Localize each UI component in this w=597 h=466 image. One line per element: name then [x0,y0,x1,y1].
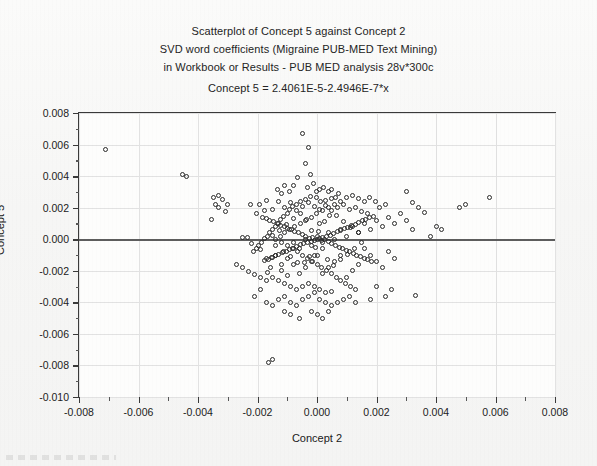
scatter-point [318,199,323,204]
scatter-point [320,246,325,251]
scatter-point [300,204,305,209]
scatter-point [234,262,239,267]
scatter-point [326,309,331,314]
scatter-point [306,145,311,150]
y-axis-tick-label: -0.004 [39,296,69,308]
scatter-point [294,287,299,292]
scatter-point [282,281,287,286]
scatter-point [270,207,275,212]
scatter-point [338,257,343,262]
scatter-point [294,303,299,308]
scatter-point [264,198,269,203]
scatter-point [216,205,221,210]
scatter-point [322,219,327,224]
x-axis-minor-tick [466,397,467,401]
scatter-point [377,205,382,210]
scatter-point [392,221,397,226]
scatter-point [344,234,349,239]
scatter-point [359,209,364,214]
y-axis-minor-tick [76,160,80,161]
x-axis-tick-label: -0.006 [124,406,154,418]
scatter-point [383,294,388,299]
scatter-point [303,265,308,270]
scatter-point [240,235,245,240]
y-axis-tick [73,208,79,209]
scatter-point [368,227,373,232]
x-axis-minor-tick [228,397,229,401]
scatter-point [249,241,254,246]
x-axis-title: Concept 2 [78,432,556,444]
scatter-point [457,205,462,210]
scatter-point [295,260,300,265]
scatter-point [380,224,385,229]
x-axis-minor-tick [406,397,407,401]
x-axis-tick [436,397,437,403]
scatter-point [350,268,355,273]
scatter-point [335,300,340,305]
scatter-point [281,249,286,254]
scatter-point [264,300,269,305]
scatter-point [262,258,267,263]
chart-title-line-2: SVD word coefficients (Migraine PUB-MED … [0,40,597,58]
scatter-point [325,257,330,262]
scatter-point [258,287,263,292]
scatter-point [288,284,293,289]
scatter-point [262,208,267,213]
scatter-point [304,217,309,222]
scatter-point [315,312,320,317]
scatter-point [327,213,332,218]
y-axis-minor-tick [76,287,80,288]
scatter-point [380,265,385,270]
y-axis-minor-tick [76,381,80,382]
chart-title-line-1: Scatterplot of Concept 5 against Concept… [0,22,597,40]
scatter-point [300,284,305,289]
scatter-point [344,275,349,280]
scatter-point [329,289,334,294]
scatter-point [317,287,322,292]
scatter-point [353,300,358,305]
x-axis-tick [377,397,378,403]
scatter-point [270,303,275,308]
scatter-point [285,273,290,278]
y-axis-minor-tick [76,129,80,130]
scatter-point [334,213,339,218]
scatter-point [416,205,421,210]
x-axis-tick-label: 0.000 [304,406,330,418]
scatter-point [362,246,367,251]
scatter-points-layer [79,113,555,397]
y-axis-tick [73,302,79,303]
scatter-point [305,185,310,190]
scatter-point [308,172,313,177]
scatter-point [314,211,319,216]
x-axis-tick [258,397,259,403]
scatter-point [368,297,373,302]
scatter-point [288,300,293,305]
scatter-point [297,316,302,321]
scatter-point [300,297,305,302]
y-axis-minor-tick [76,255,80,256]
y-axis-minor-tick [76,318,80,319]
scatter-point [362,199,367,204]
scatter-point [288,312,293,317]
scatter-point [309,215,314,220]
scatter-point [404,218,409,223]
scatter-point [326,205,331,210]
scatter-point [282,205,287,210]
scatter-point [279,262,284,267]
scatter-point [329,196,334,201]
y-axis-minor-tick [76,223,80,224]
y-axis-tick-label: 0.008 [43,107,69,119]
scatter-point [279,268,284,273]
scatter-point [345,252,350,257]
scatter-point [220,197,225,202]
y-axis-tick [73,334,79,335]
scatter-point [320,316,325,321]
scatter-point [276,278,281,283]
x-axis-tick-label: 0.002 [363,406,389,418]
scatter-point [369,259,374,264]
scatter-point [300,131,305,136]
scatter-point [245,235,250,240]
scatter-point [320,271,325,276]
scatter-point [298,221,303,226]
scatter-point [276,199,281,204]
